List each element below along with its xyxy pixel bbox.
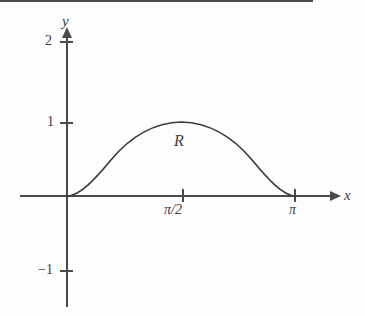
x-tick-mark-pi	[294, 189, 296, 202]
y-tick-mark-2	[60, 41, 73, 43]
y-axis-line	[66, 36, 68, 307]
x-axis-label: x	[344, 188, 351, 203]
y-tick-mark-neg1	[60, 270, 73, 272]
region-label-R: R	[174, 133, 184, 149]
x-axis-arrow-icon	[330, 191, 341, 201]
sine-region-figure: y x 2 1 −1 π/2 π R	[0, 0, 365, 316]
y-tick-label-2: 2	[45, 34, 52, 48]
y-tick-mark-1	[60, 122, 73, 124]
sine-curve	[0, 0, 365, 316]
x-tick-label-pi-half: π/2	[164, 203, 182, 217]
horizontal-cut-line	[0, 0, 313, 2]
y-tick-label-1: 1	[47, 115, 54, 129]
x-tick-label-pi: π	[289, 203, 296, 217]
x-tick-mark-pi-half	[182, 189, 184, 202]
y-tick-label-neg1: −1	[38, 263, 53, 277]
y-axis-label: y	[62, 14, 69, 29]
